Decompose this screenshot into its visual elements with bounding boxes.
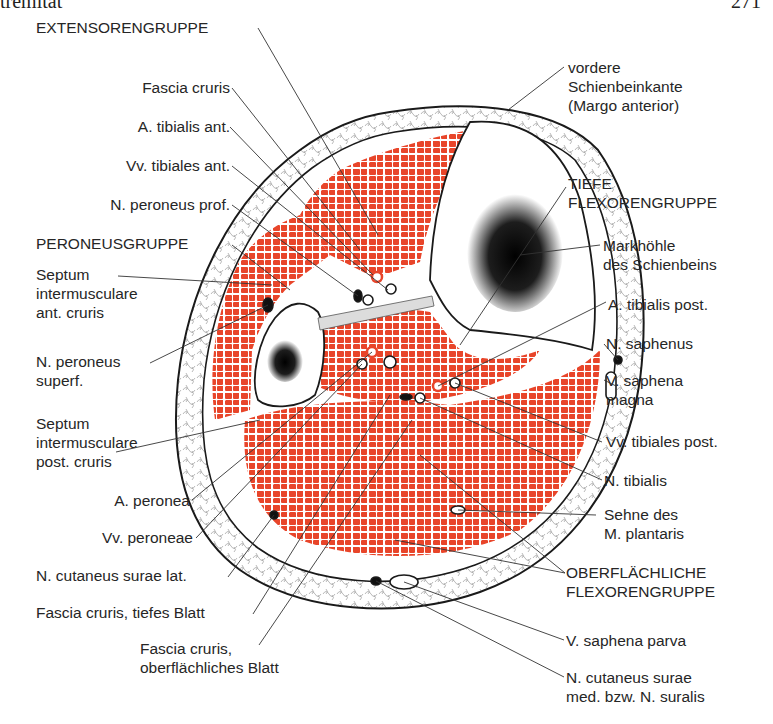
tibia-marrow	[467, 188, 563, 312]
label-line: Markhöhle	[603, 236, 717, 255]
label-vv-tibiales-ant: Vv. tibiales ant.	[126, 156, 230, 175]
label-line: FLEXORENGRUPPE	[568, 193, 717, 212]
label-v-saphena-parva: V. saphena parva	[566, 631, 686, 650]
label-vv-peroneae: Vv. peroneae	[102, 528, 193, 547]
label-peroneusgruppe: PERONEUSGRUPPE	[36, 234, 188, 253]
label-line: Septum	[36, 265, 138, 284]
label-line: intermusculare	[36, 433, 138, 452]
label-septum-ant: Septum intermusculare ant. cruris	[36, 265, 138, 322]
label-line: magna	[606, 390, 683, 409]
label-line: (Margo anterior)	[568, 96, 683, 115]
label-line: des Schienbeins	[603, 255, 717, 274]
label-line: Sehne des	[604, 505, 684, 524]
label-extensorengruppe: EXTENSORENGRUPPE	[36, 18, 208, 37]
label-margo-anterior: vordere Schienbeinkante (Margo anterior)	[568, 58, 683, 115]
label-n-tibialis: N. tibialis	[604, 471, 667, 490]
label-fascia-oberfl-blatt: Fascia cruris, oberflächliches Blatt	[140, 639, 279, 677]
label-n-cutaneus-surae-lat: N. cutaneus surae lat.	[36, 566, 187, 585]
label-line: Fascia cruris,	[140, 639, 279, 658]
label-line: oberflächliches Blatt	[140, 658, 279, 677]
label-line: M. plantaris	[604, 524, 684, 543]
label-line: vordere	[568, 58, 683, 77]
label-line: med. bzw. N. suralis	[566, 687, 705, 706]
label-markhoehle: Markhöhle des Schienbeins	[603, 236, 717, 274]
label-oberflaechliche-flexorengruppe: OBERFLÄCHLICHE FLEXORENGRUPPE	[566, 563, 715, 601]
label-line: V. saphena	[606, 371, 683, 390]
label-line: N. peroneus	[36, 352, 120, 371]
label-vv-tibiales-post: Vv. tibiales post.	[606, 432, 718, 451]
label-line: post. cruris	[36, 452, 138, 471]
label-line: FLEXORENGRUPPE	[566, 582, 715, 601]
label-fascia-cruris: Fascia cruris	[142, 78, 230, 97]
label-line: superf.	[36, 371, 120, 390]
label-n-peroneus-prof: N. peroneus prof.	[110, 195, 230, 214]
label-a-tibialis-ant: A. tibialis ant.	[138, 117, 230, 136]
label-a-peronea: A. peronea	[114, 491, 190, 510]
label-v-saphena-magna: V. saphena magna	[606, 371, 683, 409]
label-line: Septum	[36, 414, 138, 433]
label-n-suralis: N. cutaneus surae med. bzw. N. suralis	[566, 668, 705, 706]
label-line: N. cutaneus surae	[566, 668, 705, 687]
label-line: OBERFLÄCHLICHE	[566, 563, 715, 582]
label-a-tibialis-post: A. tibialis post.	[608, 295, 708, 314]
label-line: ant. cruris	[36, 303, 138, 322]
label-line: Schienbeinkante	[568, 77, 683, 96]
label-fascia-tiefes-blatt: Fascia cruris, tiefes Blatt	[36, 603, 205, 622]
fibula-marrow	[267, 338, 303, 382]
label-n-saphenus: N. saphenus	[606, 334, 693, 353]
label-tiefe-flexorengruppe: TIEFE FLEXORENGRUPPE	[568, 174, 717, 212]
label-septum-post: Septum intermusculare post. cruris	[36, 414, 138, 471]
label-sehne-plantaris: Sehne des M. plantaris	[604, 505, 684, 543]
label-n-peroneus-superf: N. peroneus superf.	[36, 352, 120, 390]
label-line: TIEFE	[568, 174, 717, 193]
label-line: intermusculare	[36, 284, 138, 303]
